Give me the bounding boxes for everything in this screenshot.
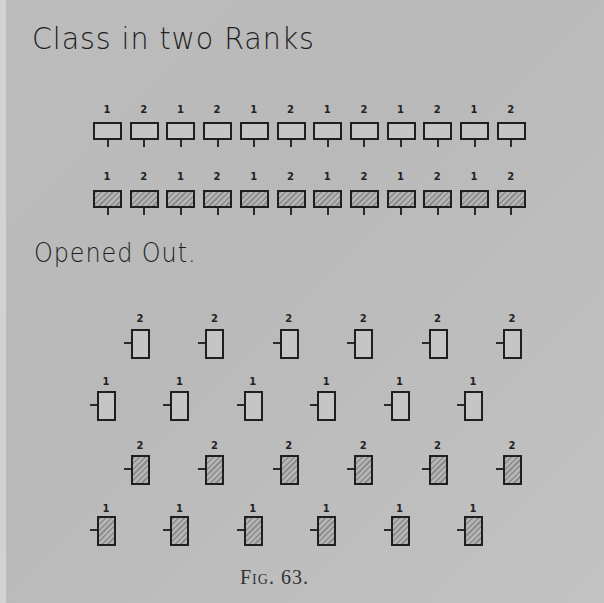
- open-box-icon: [313, 122, 342, 140]
- file-number: 2: [281, 171, 301, 182]
- subtitle-opened-out: Opened Out.: [34, 238, 196, 268]
- facing-tick-icon: [273, 468, 280, 470]
- hatched-box-icon: [423, 190, 452, 208]
- facing-tick-icon: [143, 140, 145, 147]
- hatched-box-icon: [313, 190, 342, 208]
- file-number: 1: [243, 503, 263, 514]
- facing-tick-icon: [180, 208, 182, 215]
- hatched-box-icon: [203, 190, 232, 208]
- file-number: 2: [134, 171, 154, 182]
- hatched-box-icon: [460, 190, 489, 208]
- facing-tick-icon: [310, 404, 317, 406]
- facing-tick-icon: [290, 208, 292, 215]
- open-box-icon: [280, 329, 299, 359]
- file-number: 1: [97, 104, 117, 115]
- open-box-icon: [240, 122, 269, 140]
- caption-text: Fig. 63.: [240, 566, 309, 588]
- file-number: 2: [354, 171, 374, 182]
- hatched-box-icon: [93, 190, 122, 208]
- facing-tick-icon: [347, 342, 354, 344]
- file-number: 1: [96, 503, 116, 514]
- facing-tick-icon: [437, 208, 439, 215]
- file-number: 2: [353, 313, 373, 324]
- facing-tick-icon: [273, 342, 280, 344]
- facing-tick-icon: [90, 404, 97, 406]
- open-box-icon: [354, 329, 373, 359]
- facing-tick-icon: [124, 342, 131, 344]
- open-box-icon: [387, 122, 416, 140]
- file-number: 1: [96, 376, 116, 387]
- file-number: 1: [170, 104, 190, 115]
- file-number: 2: [279, 313, 299, 324]
- file-number: 2: [134, 104, 154, 115]
- file-number: 2: [130, 313, 150, 324]
- file-number: 2: [428, 440, 448, 451]
- facing-tick-icon: [384, 529, 391, 531]
- open-box-icon: [317, 391, 336, 421]
- file-number: 1: [316, 503, 336, 514]
- facing-tick-icon: [327, 140, 329, 147]
- facing-tick-icon: [496, 468, 503, 470]
- hatched-box-icon: [240, 190, 269, 208]
- facing-tick-icon: [437, 140, 439, 147]
- file-number: 1: [317, 171, 337, 182]
- file-number: 1: [169, 376, 189, 387]
- open-box-icon: [503, 329, 522, 359]
- open-box-icon: [205, 329, 224, 359]
- file-number: 1: [169, 503, 189, 514]
- file-number: 2: [501, 171, 521, 182]
- facing-tick-icon: [384, 404, 391, 406]
- facing-tick-icon: [90, 529, 97, 531]
- facing-tick-icon: [400, 208, 402, 215]
- file-number: 2: [354, 104, 374, 115]
- facing-tick-icon: [510, 140, 512, 147]
- file-number: 1: [390, 503, 410, 514]
- open-box-icon: [93, 122, 122, 140]
- facing-tick-icon: [198, 468, 205, 470]
- facing-tick-icon: [163, 404, 170, 406]
- hatched-box-icon: [429, 455, 448, 485]
- facing-tick-icon: [107, 140, 109, 147]
- hatched-box-icon: [130, 190, 159, 208]
- file-number: 2: [427, 171, 447, 182]
- open-box-icon: [170, 391, 189, 421]
- facing-tick-icon: [217, 208, 219, 215]
- facing-tick-icon: [198, 342, 205, 344]
- facing-tick-icon: [310, 529, 317, 531]
- open-box-icon: [429, 329, 448, 359]
- open-box-icon: [166, 122, 195, 140]
- facing-tick-icon: [474, 208, 476, 215]
- file-number: 2: [502, 313, 522, 324]
- file-number: 1: [463, 376, 483, 387]
- facing-tick-icon: [253, 208, 255, 215]
- figure-caption: Fig. 63.: [240, 566, 309, 589]
- facing-tick-icon: [163, 529, 170, 531]
- hatched-box-icon: [391, 516, 410, 546]
- file-number: 2: [428, 313, 448, 324]
- file-number: 1: [316, 376, 336, 387]
- file-number: 1: [464, 104, 484, 115]
- facing-tick-icon: [124, 468, 131, 470]
- facing-tick-icon: [363, 208, 365, 215]
- open-box-icon: [131, 329, 150, 359]
- open-box-icon: [497, 122, 526, 140]
- file-number: 2: [281, 104, 301, 115]
- file-number: 2: [207, 104, 227, 115]
- file-number: 2: [207, 171, 227, 182]
- file-number: 2: [130, 440, 150, 451]
- hatched-box-icon: [166, 190, 195, 208]
- file-number: 1: [391, 171, 411, 182]
- facing-tick-icon: [457, 404, 464, 406]
- hatched-box-icon: [497, 190, 526, 208]
- facing-tick-icon: [457, 529, 464, 531]
- hatched-box-icon: [277, 190, 306, 208]
- facing-tick-icon: [237, 404, 244, 406]
- file-number: 2: [427, 104, 447, 115]
- file-number: 1: [244, 104, 264, 115]
- facing-tick-icon: [217, 140, 219, 147]
- facing-tick-icon: [327, 208, 329, 215]
- file-number: 2: [204, 440, 224, 451]
- open-box-icon: [130, 122, 159, 140]
- facing-tick-icon: [347, 468, 354, 470]
- open-box-icon: [391, 391, 410, 421]
